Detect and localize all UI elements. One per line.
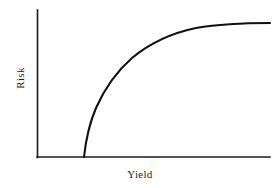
y-axis-label: Risk: [14, 48, 26, 108]
chart-plot-area: [0, 0, 280, 188]
x-axis-label: Yield: [0, 168, 280, 180]
data-series-group: [84, 23, 270, 157]
risk-yield-curve: [84, 23, 270, 157]
axes-group: [37, 10, 270, 158]
chart-figure: Risk Yield: [0, 0, 280, 188]
